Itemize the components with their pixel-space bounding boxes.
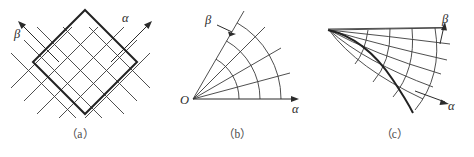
alpha-label-c: α	[448, 100, 455, 113]
alpha-label-a: α	[122, 12, 129, 25]
beta-direction-arrow-b	[217, 25, 236, 37]
diagram-panel-a: α β （a）	[0, 0, 160, 157]
beta-label-b: β	[205, 14, 211, 27]
figure-root: α β （a）	[0, 0, 474, 157]
concentric-arcs-b	[216, 23, 281, 99]
beta-family-lines-a	[11, 27, 150, 118]
beta-label-c: β	[442, 13, 448, 26]
diamond-boundary-a	[33, 10, 137, 114]
boundary-curve-c	[328, 30, 413, 113]
caption-c: （c）	[315, 126, 474, 142]
alpha-label-b: α	[292, 103, 299, 116]
radial-rays-b	[193, 27, 290, 99]
beta-axis-ray-b	[193, 11, 244, 99]
alpha-axis-arrow-b	[193, 96, 299, 102]
beta-label-a: β	[14, 28, 20, 41]
alpha-family-lines-a	[11, 27, 150, 118]
caption-a: （a）	[0, 126, 160, 142]
diagram-a-canvas	[0, 0, 160, 124]
diagram-panel-c: β α （c）	[315, 0, 474, 157]
origin-label-b: O	[180, 94, 189, 107]
caption-b: （b）	[160, 126, 315, 142]
diagram-panel-b: O α β （b）	[160, 0, 315, 157]
